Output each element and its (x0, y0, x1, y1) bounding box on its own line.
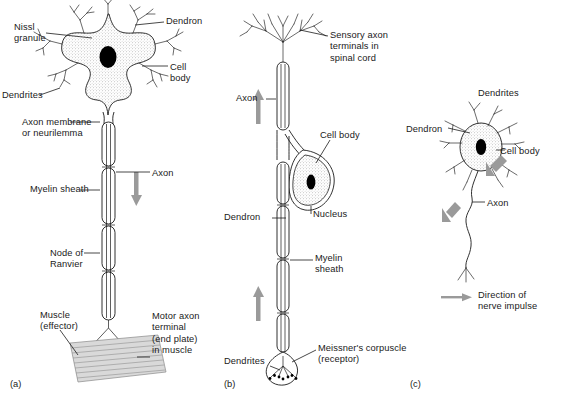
relay-axon-terminals (458, 268, 474, 282)
sensory-axon-terminal-tree (240, 14, 326, 62)
sensory-trunk-continuation (277, 130, 289, 160)
label-node-of-ranvier: Node of Ranvier (50, 248, 83, 271)
label-meissners-corpuscle: Meissner's corpuscle (receptor) (318, 343, 407, 366)
label-cell-body-c: Cell body (500, 146, 540, 157)
label-dendron-c: Dendron (406, 124, 442, 135)
label-myelin-sheath-b: Myelin sheath (315, 253, 344, 276)
sensory-dendron-segments (277, 162, 289, 352)
relay-axon (466, 171, 478, 268)
figure-canvas: Nissl granule Dendron Cell body Dendrite… (0, 0, 561, 400)
label-myelin-sheath-a: Myelin sheath (30, 184, 89, 195)
panel-id-a: (a) (10, 379, 21, 389)
label-axon-b: Axon (236, 93, 258, 104)
sensory-impulse-arrow-lower (253, 286, 264, 321)
label-axon-c: Axon (487, 198, 509, 209)
label-dendrites-c: Dendrites (478, 88, 519, 99)
legend-label-direction-of-nerve-impulse: Direction of nerve impulse (478, 290, 537, 313)
label-dendron-b: Dendron (224, 212, 260, 223)
panel-id-b: (b) (224, 379, 235, 389)
label-cell-body-a: Cell body (170, 62, 191, 85)
label-dendrites-b: Dendrites (224, 356, 265, 367)
label-axon-membrane: Axon membrane or neurilemma (22, 117, 92, 140)
label-cell-body-b: Cell body (320, 130, 360, 141)
label-axon-a: Axon (152, 168, 174, 179)
panel-id-c: (c) (410, 379, 421, 389)
label-nissl-granule: Nissl granule (14, 22, 46, 45)
label-dendron-a: Dendron (166, 16, 202, 27)
legend-arrow (441, 293, 472, 301)
sensory-neurone-group (240, 14, 334, 385)
label-dendrites-a: Dendrites (2, 90, 43, 101)
sensory-axon-segments (277, 62, 289, 130)
label-muscle-effector: Muscle (effector) (40, 310, 78, 333)
label-nucleus-b: Nucleus (313, 209, 347, 220)
relay-impulse-arrow-lower (442, 202, 461, 222)
motor-nucleus (100, 46, 117, 68)
label-motor-axon-terminal: Motor axon terminal (end plate) in muscl… (152, 311, 200, 357)
sensory-nucleus (307, 175, 316, 190)
motor-myelin-segments (102, 122, 115, 320)
neuron-diagram-artwork (0, 0, 561, 400)
label-sensory-axon-terminals: Sensory axon terminals in spinal cord (330, 30, 388, 64)
relay-nucleus (476, 139, 486, 155)
relay-neurone-group (440, 102, 524, 282)
motor-impulse-arrow (131, 172, 142, 206)
